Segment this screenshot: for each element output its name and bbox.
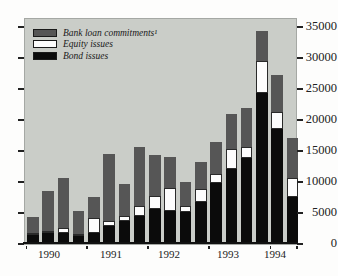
equity-segment bbox=[210, 174, 222, 183]
left-axis-tick bbox=[18, 181, 24, 183]
loans-segment bbox=[149, 155, 161, 196]
bond-segment bbox=[134, 216, 146, 242]
loans-segment bbox=[210, 142, 222, 174]
bond-segment bbox=[226, 169, 238, 242]
stacked-bar-1990-q2 bbox=[42, 191, 54, 242]
left-axis-tick bbox=[18, 88, 24, 90]
stacked-bar-1991-q4 bbox=[134, 147, 146, 242]
loans-segment bbox=[103, 154, 115, 221]
bond-segment bbox=[88, 233, 100, 242]
bond-segment bbox=[241, 158, 253, 242]
y-tick-label: 20000 bbox=[300, 112, 337, 127]
loans-segment bbox=[58, 178, 70, 229]
left-axis-tick bbox=[18, 212, 24, 214]
loans-segment bbox=[164, 157, 176, 188]
bond-segment bbox=[210, 183, 222, 242]
left-axis-tick bbox=[18, 150, 24, 152]
year-boundary-tick bbox=[26, 246, 28, 249]
plot-area: Bank loan commitments¹ Equity issues Bon… bbox=[24, 18, 297, 245]
equity-segment bbox=[88, 218, 100, 233]
stacked-bar-1990-q1 bbox=[27, 217, 39, 242]
equity-segment bbox=[134, 206, 146, 216]
left-axis-tick bbox=[18, 26, 24, 28]
equity-segment bbox=[164, 188, 176, 210]
y-tick-label: 30000 bbox=[300, 50, 337, 65]
bond-segment bbox=[164, 211, 176, 242]
equity-segment bbox=[256, 61, 268, 93]
y-tick-label: 10000 bbox=[300, 174, 337, 189]
loans-segment bbox=[134, 147, 146, 205]
equity-segment bbox=[271, 112, 283, 129]
bond-segment bbox=[103, 226, 115, 242]
equity-segment bbox=[195, 189, 207, 202]
left-axis-tick bbox=[18, 57, 24, 59]
year-boundary-tick bbox=[86, 246, 88, 249]
loans-segment bbox=[119, 184, 131, 216]
left-axis-tick bbox=[18, 119, 24, 121]
loans-segment bbox=[287, 138, 299, 178]
x-year-label-1990: 1990 bbox=[29, 248, 69, 260]
stacked-bar-1993-q2 bbox=[226, 114, 238, 242]
stacked-bar-1992-q2 bbox=[164, 157, 176, 242]
bond-segment bbox=[119, 221, 131, 242]
x-year-label-1994: 1994 bbox=[255, 248, 295, 260]
x-axis-line bbox=[23, 242, 298, 244]
loans-segment bbox=[271, 75, 283, 112]
bond-segment bbox=[287, 197, 299, 242]
y-tick-label: 5000 bbox=[300, 205, 337, 220]
x-year-label-1991: 1991 bbox=[91, 248, 131, 260]
bond-segment bbox=[271, 129, 283, 242]
stacked-bar-1990-q4 bbox=[73, 211, 85, 242]
bond-segment bbox=[58, 233, 70, 242]
x-year-label-1992: 1992 bbox=[149, 248, 189, 260]
stacked-bar-chart-figure: Bank loan commitments¹ Equity issues Bon… bbox=[0, 0, 338, 276]
bars-container bbox=[25, 19, 296, 242]
stacked-bar-1993-q3 bbox=[241, 108, 253, 242]
stacked-bar-1993-q1 bbox=[210, 142, 222, 242]
x-year-label-1993: 1993 bbox=[208, 248, 248, 260]
bond-segment bbox=[195, 202, 207, 242]
equity-segment bbox=[226, 149, 238, 169]
stacked-bar-1992-q1 bbox=[149, 155, 161, 242]
loans-segment bbox=[180, 182, 192, 206]
loans-segment bbox=[241, 108, 253, 147]
stacked-bar-1993-q4 bbox=[256, 31, 268, 242]
loans-segment bbox=[88, 197, 100, 218]
bond-segment bbox=[149, 209, 161, 242]
stacked-bar-1991-q3 bbox=[119, 184, 131, 242]
stacked-bar-1991-q2 bbox=[103, 154, 115, 242]
stacked-bar-1991-q1 bbox=[88, 197, 100, 242]
bond-segment bbox=[180, 212, 192, 242]
loans-segment bbox=[42, 191, 54, 231]
loans-segment bbox=[195, 162, 207, 189]
y-tick-label: 0 bbox=[300, 236, 337, 251]
y-tick-label: 35000 bbox=[300, 19, 337, 34]
stacked-bar-1994-q2 bbox=[287, 138, 299, 242]
stacked-bar-1994-q1 bbox=[271, 75, 283, 242]
y-tick-label: 15000 bbox=[300, 143, 337, 158]
stacked-bar-1990-q3 bbox=[58, 178, 70, 242]
stacked-bar-1992-q3 bbox=[180, 182, 192, 242]
loans-segment bbox=[73, 211, 85, 234]
y-tick-label: 25000 bbox=[300, 81, 337, 96]
year-boundary-tick bbox=[296, 246, 298, 249]
bond-segment bbox=[256, 93, 268, 242]
loans-segment bbox=[27, 217, 39, 233]
loans-segment bbox=[256, 31, 268, 61]
equity-segment bbox=[149, 196, 161, 209]
stacked-bar-1992-q4 bbox=[195, 162, 207, 242]
loans-segment bbox=[226, 114, 238, 149]
bond-segment bbox=[27, 235, 39, 242]
bond-segment bbox=[42, 233, 54, 242]
equity-segment bbox=[241, 147, 253, 158]
